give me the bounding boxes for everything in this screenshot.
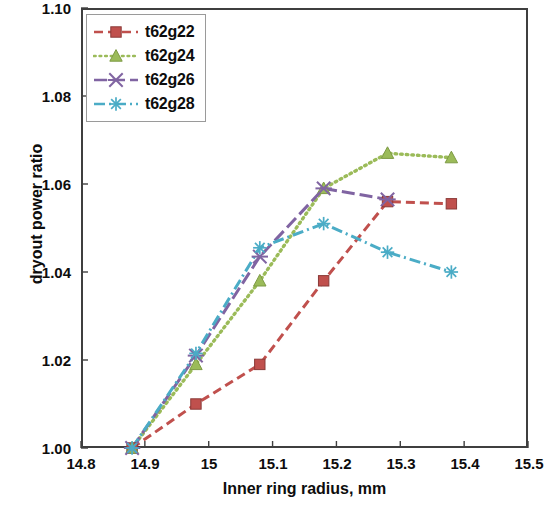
legend-item-t62g26[interactable]: t62g26: [93, 68, 195, 92]
y-axis-title: dryout power ratio: [28, 114, 46, 314]
x-tick-label: 15.5: [499, 455, 549, 472]
legend-label: t62g22: [145, 23, 195, 41]
chart-container: 1.10 1.08 1.06 1.04 1.02 1.00 14.8 14.9 …: [0, 0, 549, 508]
chart-legend: t62g22 t62g24 t62g26 t62g28: [86, 14, 206, 122]
y-tick-label: 1.08: [11, 88, 71, 105]
legend-label: t62g28: [145, 95, 195, 113]
legend-label: t62g26: [145, 71, 195, 89]
x-tick-label: 15.2: [307, 455, 367, 472]
data-series-group: [124, 147, 458, 455]
x-tick-label: 15: [179, 455, 239, 472]
x-tick-label: 15.1: [243, 455, 303, 472]
legend-label: t62g24: [145, 47, 195, 65]
legend-item-t62g28[interactable]: t62g28: [93, 92, 195, 116]
x-tick-label: 14.9: [115, 455, 175, 472]
chart-plot-svg: [0, 0, 549, 508]
y-tick-label: 1.02: [11, 352, 71, 369]
x-tick-label: 14.8: [51, 455, 111, 472]
legend-key-square-icon: [93, 24, 139, 40]
x-tick-label: 15.3: [371, 455, 431, 472]
y-tick-label: 1.10: [11, 0, 71, 17]
x-tick-label: 15.4: [435, 455, 495, 472]
legend-key-asterisk-icon: [93, 96, 139, 112]
legend-key-triangle-icon: [93, 48, 139, 64]
legend-item-t62g22[interactable]: t62g22: [93, 20, 195, 44]
legend-item-t62g24[interactable]: t62g24: [93, 44, 195, 68]
x-axis-title: Inner ring radius, mm: [81, 480, 528, 498]
legend-key-x-icon: [93, 72, 139, 88]
